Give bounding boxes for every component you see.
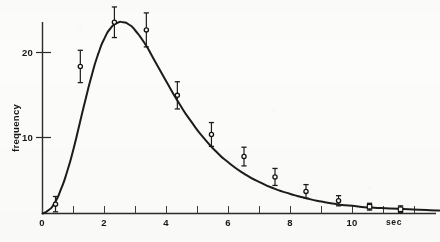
data-point [209,123,214,147]
data-point [78,50,83,82]
tail-point-marker [367,205,371,209]
x-tick-label-6: 6 [225,217,230,228]
data-point-marker [78,64,82,68]
data-point-marker [304,189,308,193]
fitted-curve [43,22,440,214]
data-point-marker [242,154,246,158]
data-point-marker [175,93,179,97]
data-point [112,7,117,38]
x-tick-label-4: 4 [163,217,169,228]
fitted-curve-path [43,22,440,214]
data-point-marker [112,20,116,24]
data-point [241,147,246,166]
data-point [303,185,308,199]
frequency-distribution-chart: 20 10 frequency 0 2 4 6 8 [0,0,440,242]
data-point-marker [273,175,277,179]
x-axis-tick-labels: 0 2 4 6 8 10 [39,217,357,228]
y-axis-title: frequency [10,104,21,153]
figure-root: 20 10 frequency 0 2 4 6 8 [0,0,440,242]
data-point-marker [336,199,340,203]
data-point-marker [144,28,148,32]
y-axis-tick-labels: 20 10 [22,47,33,143]
x-tick-label-10: 10 [347,217,358,228]
data-point-marker [53,202,57,206]
x-tick-label-0: 0 [39,217,44,228]
x-axis-unit-label: sec [386,217,402,227]
axes-group [43,22,437,214]
y-axis-ticks [36,53,51,138]
x-tick-label-2: 2 [101,217,106,228]
tail-point-marker [398,207,402,211]
data-point-marker [209,132,213,136]
x-tick-label-8: 8 [287,217,292,228]
data-point [272,168,277,185]
y-tick-label-10: 10 [22,132,33,143]
y-tick-label-20: 20 [22,47,33,58]
